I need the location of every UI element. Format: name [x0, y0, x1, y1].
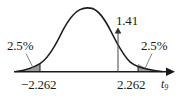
axis-arrowhead-icon [166, 68, 175, 76]
right-tail-percent-label: 2.5% [141, 39, 167, 52]
left-percent-leader-line [26, 54, 34, 69]
left-tail-percent-label: 2.5% [7, 39, 33, 52]
t-distribution-figure: 2.5% 2.5% 1.41 −2.262 2.262 t9 [0, 0, 179, 101]
right-critical-value-label: 2.262 [117, 78, 145, 91]
axis-label: t9 [161, 78, 168, 90]
test-statistic-label: 1.41 [116, 14, 138, 27]
test-statistic-arrowhead-icon [115, 28, 122, 34]
axis-label-degrees-of-freedom: 9 [164, 83, 168, 92]
right-percent-leader-line [145, 54, 152, 69]
left-critical-value-label: −2.262 [21, 78, 56, 91]
